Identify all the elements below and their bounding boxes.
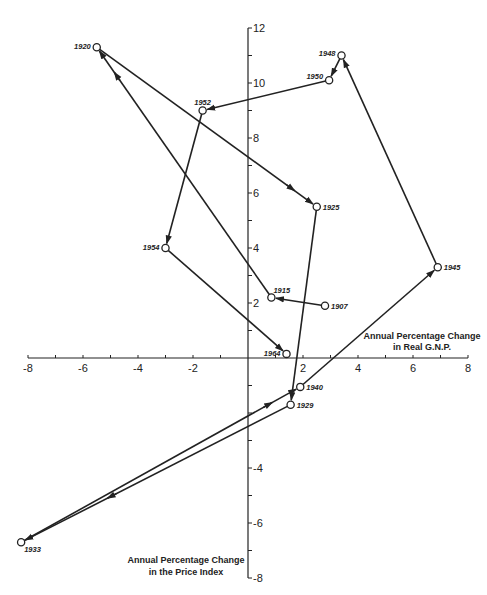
point-label: 1952 (194, 98, 212, 107)
x-tick-label: -2 (188, 362, 198, 374)
x-tick-label: 8 (465, 362, 471, 374)
x-tick-label: -4 (133, 362, 143, 374)
point-label: 1920 (74, 42, 92, 51)
data-point-1945 (434, 264, 441, 271)
path-segment (168, 250, 283, 350)
y-tick-label: 8 (253, 132, 259, 144)
x-axis-title-line1: Annual Percentage Change (363, 331, 480, 341)
mid-arrow (287, 185, 295, 191)
point-label: 1940 (306, 383, 324, 392)
y-tick-label: 6 (253, 187, 259, 199)
data-point-1925 (313, 203, 320, 210)
y-tick-label: 2 (253, 297, 259, 309)
data-point-1952 (199, 107, 206, 114)
y-tick-label: 12 (253, 22, 265, 34)
data-point-1950 (326, 77, 333, 84)
y-tick-label: -8 (253, 572, 263, 584)
point-label: 1915 (273, 286, 291, 295)
x-tick-label: -8 (23, 362, 33, 374)
x-tick-label: 4 (355, 362, 361, 374)
point-label: 1945 (444, 263, 462, 272)
mid-arrow (264, 402, 273, 407)
point-label: 1950 (306, 72, 324, 81)
data-point-1929 (287, 401, 294, 408)
point-label: 1933 (24, 545, 42, 554)
path-segment (207, 81, 326, 109)
data-point-1954 (162, 244, 169, 251)
path-segment (276, 298, 322, 305)
data-point-1948 (338, 52, 345, 59)
scatter-path-chart: -8-6-4-2246812108642-4-6-8 1907191519201… (0, 0, 487, 595)
path-segment (99, 51, 269, 295)
y-tick-label: 10 (253, 77, 265, 89)
x-axis-title-line2: in Real G.N.P. (393, 342, 451, 352)
point-label: 1954 (143, 243, 161, 252)
path-segment (343, 60, 436, 264)
point-label: 1929 (297, 401, 315, 410)
y-tick-label: 4 (253, 242, 259, 254)
data-points: 1907191519201925192919331940194519481950… (18, 42, 462, 554)
point-label: 1925 (323, 203, 341, 212)
axes: -8-6-4-2246812108642-4-6-8 (23, 22, 471, 584)
point-label: 1907 (331, 302, 349, 311)
point-label: 1964 (264, 349, 282, 358)
y-tick-label: -6 (253, 517, 263, 529)
x-tick-label: 6 (410, 362, 416, 374)
x-tick-label: -6 (78, 362, 88, 374)
data-point-1907 (321, 302, 328, 309)
path-segment (167, 114, 202, 244)
path-segment (100, 49, 313, 204)
y-axis-title-line1: Annual Percentage Change (127, 555, 244, 565)
data-point-1940 (297, 383, 304, 390)
x-tick-label: 2 (300, 362, 306, 374)
data-point-1920 (93, 44, 100, 51)
data-path (24, 49, 436, 540)
point-label: 1948 (319, 49, 337, 58)
data-point-1964 (283, 350, 290, 357)
path-segment (331, 59, 340, 76)
y-axis-title-line2: in the Price Index (149, 567, 224, 577)
mid-arrow (114, 72, 120, 80)
y-tick-label: -4 (253, 462, 263, 474)
data-point-1915 (268, 294, 275, 301)
